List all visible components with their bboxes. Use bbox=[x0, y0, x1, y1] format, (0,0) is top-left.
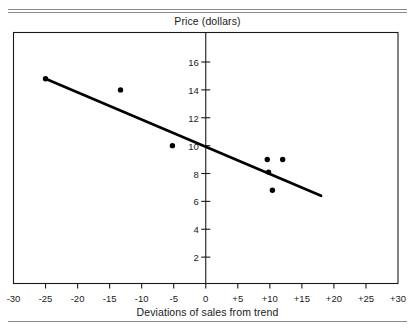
bottom-rule bbox=[8, 321, 407, 322]
y-tick-label: 10 bbox=[188, 140, 199, 151]
y-tick-label: 6 bbox=[193, 196, 198, 207]
x-tick-label: -10 bbox=[135, 292, 149, 303]
x-tick-label: 0 bbox=[203, 292, 208, 303]
data-point bbox=[270, 188, 275, 193]
y-tick-label: 12 bbox=[188, 112, 199, 123]
y-tick-label: 16 bbox=[188, 57, 199, 68]
y-tick-label: 14 bbox=[188, 84, 199, 95]
x-tick-label: -5 bbox=[169, 292, 177, 303]
data-point bbox=[280, 157, 285, 162]
x-tick-label: +10 bbox=[262, 292, 278, 303]
scatter-plot-canvas bbox=[0, 0, 415, 328]
data-point bbox=[266, 169, 271, 174]
x-tick-label: +25 bbox=[358, 292, 374, 303]
chart-figure: Price (dollars) -30-25-20-15-10-50+5+10+… bbox=[0, 0, 415, 328]
x-tick-label: +20 bbox=[326, 292, 342, 303]
y-tick-label: 4 bbox=[193, 224, 198, 235]
x-tick-label: +5 bbox=[232, 292, 243, 303]
y-tick-label: 2 bbox=[193, 252, 198, 263]
data-point bbox=[170, 143, 175, 148]
y-tick-label: 8 bbox=[193, 168, 198, 179]
data-point bbox=[43, 76, 48, 81]
x-tick-label: -20 bbox=[71, 292, 85, 303]
x-tick-label: -30 bbox=[7, 292, 21, 303]
data-point bbox=[118, 87, 123, 92]
x-axis-title: Deviations of sales from trend bbox=[0, 306, 415, 318]
x-tick-label: +15 bbox=[294, 292, 310, 303]
x-tick-label: -25 bbox=[39, 292, 53, 303]
data-point bbox=[265, 157, 270, 162]
regression-line bbox=[46, 79, 322, 196]
x-tick-label: -15 bbox=[103, 292, 117, 303]
x-tick-label: +30 bbox=[390, 292, 406, 303]
